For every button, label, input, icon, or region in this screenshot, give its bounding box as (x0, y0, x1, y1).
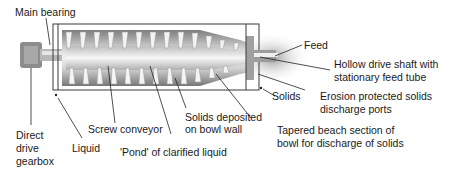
label-solids-deposited-line2: on bowl wall (185, 123, 242, 135)
label-tapered-line1: Tapered beach section of (277, 124, 394, 136)
label-hollow-shaft-line2: stationary feed tube (334, 71, 426, 83)
gearbox (20, 42, 62, 68)
label-main-bearing: Main bearing (15, 6, 76, 18)
conveyor-core (66, 46, 246, 70)
label-erosion-line2: discharge ports (320, 103, 392, 115)
label-liquid: Liquid (72, 142, 100, 154)
label-hollow-shaft-line1: Hollow drive shaft with (334, 58, 438, 70)
label-feed: Feed (304, 39, 328, 51)
label-erosion-line1: Erosion protected solids (320, 90, 432, 102)
label-gearbox-line3: gearbox (16, 155, 54, 167)
label-gearbox-line2: drive (16, 142, 39, 154)
label-pond: 'Pond' of clarified liquid (120, 146, 227, 158)
label-solids-deposited-line1: Solids deposited (185, 111, 262, 123)
label-solids: Solids (272, 90, 301, 102)
label-gearbox-line1: Direct (16, 129, 43, 141)
label-screw-conveyor: Screw conveyor (88, 123, 163, 135)
label-tapered-line2: bowl for discharge of solids (277, 137, 404, 149)
